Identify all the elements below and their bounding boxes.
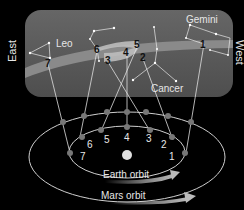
gemini-label: Gemini	[186, 14, 218, 25]
orbit-position-4: 4	[124, 132, 130, 143]
retrograde-diagram: East West Leo Gemini Cancer Earth orbit …	[0, 0, 244, 210]
orbit-position-6: 6	[87, 139, 93, 150]
sky-position-3: 3	[105, 55, 111, 66]
earth-arrowhead-icon	[170, 170, 180, 180]
earth-orbit-label: Earth orbit	[103, 169, 149, 180]
mars-orbit-label: Mars orbit	[101, 190, 146, 201]
leo-label: Leo	[56, 38, 73, 49]
sky-position-6: 6	[94, 44, 100, 55]
sky-position-4: 4	[123, 47, 129, 58]
sun	[122, 150, 132, 160]
west-label: West	[234, 40, 244, 65]
sky-position-7: 7	[45, 58, 51, 69]
sky-position-1: 1	[200, 39, 206, 50]
sky-position-2: 2	[140, 52, 146, 63]
east-label: East	[6, 40, 18, 62]
sky-position-5: 5	[134, 39, 140, 50]
orbit-position-3: 3	[146, 133, 152, 144]
orbit-position-2: 2	[161, 139, 167, 150]
orbit-position-7: 7	[80, 151, 86, 162]
mars-arrowhead-icon	[184, 192, 196, 203]
orbit-position-1: 1	[169, 151, 175, 162]
cancer-label: Cancer	[151, 83, 184, 94]
orbit-position-5: 5	[104, 134, 110, 145]
